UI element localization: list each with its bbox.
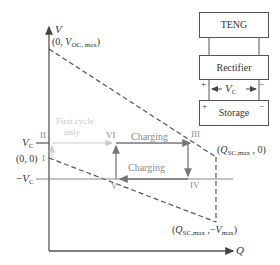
state-iii-label: III <box>191 130 200 139</box>
qsc-vmax-label: (QSC,max ,−Vmax) <box>172 225 237 237</box>
neg-vc-label: −VC <box>16 173 34 186</box>
storage-plus-sign: + <box>202 102 207 111</box>
state-vi-label: VI <box>106 131 116 140</box>
charging-label-upper: Charging <box>131 132 168 142</box>
storage-minus-sign: − <box>259 102 264 111</box>
teng-block: TENG <box>199 12 269 38</box>
state-v-label: V <box>111 182 118 191</box>
voc-max-label: (0, VOC, max) <box>52 37 100 49</box>
origin-label: (0, 0) <box>16 154 38 164</box>
x-axis-label: Q <box>236 245 244 256</box>
circuit-vc-label: VC <box>225 83 236 96</box>
qsc-zero-label: (QSC,max , 0) <box>217 145 266 157</box>
first-cycle-note-line2: only <box>64 128 80 137</box>
rectifier-plus-sign: + <box>201 80 206 89</box>
charging-label-lower: Charging <box>128 163 165 173</box>
state-i-label: I <box>42 154 45 163</box>
vc-label: VC <box>22 137 33 150</box>
y-axis-label: V <box>55 24 62 35</box>
vq-diagram: V Q (0, VOC, max) (0, 0) (QSC,max , 0) (… <box>0 0 280 265</box>
state-ii-label: II <box>40 131 46 140</box>
first-cycle-note-line1: First cycle <box>56 117 94 126</box>
rectifier-minus-sign: − <box>259 80 264 89</box>
state-iv-label: IV <box>190 181 200 190</box>
rectifier-block: Rectifier <box>199 55 269 80</box>
